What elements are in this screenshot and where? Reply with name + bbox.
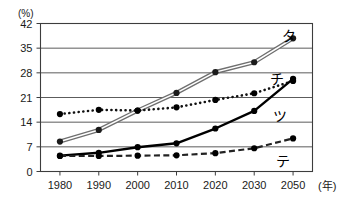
data-point	[212, 97, 218, 103]
x-tick-label: 2050	[281, 179, 305, 191]
y-tick-label: 0	[26, 166, 32, 178]
y-tick-labels: 071421283542	[20, 18, 32, 178]
data-point	[173, 140, 179, 146]
y-tick-label: 42	[20, 18, 32, 30]
data-point	[96, 127, 102, 133]
data-point	[173, 90, 179, 96]
data-point	[251, 108, 257, 114]
data-point	[173, 104, 179, 110]
series-label-タ: タ	[282, 28, 296, 44]
data-point	[173, 152, 179, 158]
y-tick-label: 14	[20, 116, 32, 128]
data-point	[135, 144, 141, 150]
y-tick-label: 21	[20, 92, 32, 104]
x-tick-label: 1980	[48, 179, 72, 191]
y-tick-marks	[37, 24, 41, 172]
data-point	[57, 138, 63, 144]
data-point	[290, 76, 296, 82]
x-tick-labels: 1980199020002010202020302050	[48, 179, 306, 191]
line-chart: (%) (年) 071421283542 1980199020002010202…	[0, 0, 359, 201]
x-tick-label: 2030	[242, 179, 266, 191]
data-point	[212, 69, 218, 75]
data-point	[96, 153, 102, 159]
y-tick-label: 7	[26, 141, 32, 153]
data-point	[96, 107, 102, 113]
x-tick-marks	[60, 172, 293, 176]
series-label-チ: チ	[270, 71, 284, 87]
data-point	[251, 59, 257, 65]
chart-container: (%) (年) 071421283542 1980199020002010202…	[0, 0, 359, 201]
x-axis-unit-label: (年)	[318, 179, 336, 192]
x-tick-label: 2020	[203, 179, 227, 191]
x-tick-label: 1990	[87, 179, 111, 191]
data-point	[135, 153, 141, 159]
x-tick-label: 2000	[125, 179, 149, 191]
data-point	[212, 150, 218, 156]
data-point	[135, 107, 141, 113]
data-point	[251, 90, 257, 96]
series-label-ツ: ツ	[273, 108, 287, 124]
x-tick-label: 2010	[164, 179, 188, 191]
data-point	[57, 153, 63, 159]
y-tick-label: 28	[20, 67, 32, 79]
series-タ	[57, 35, 296, 144]
data-point	[57, 111, 63, 117]
series-label-テ: テ	[276, 153, 290, 169]
y-tick-label: 35	[20, 42, 32, 54]
data-point	[290, 135, 296, 141]
data-point	[212, 125, 218, 131]
data-point	[251, 145, 257, 151]
